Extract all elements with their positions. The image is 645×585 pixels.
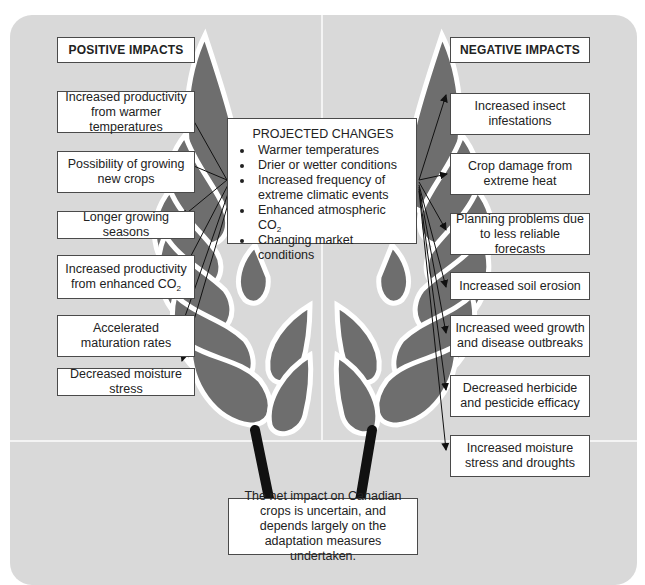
list-item: Drier or wetter conditions — [254, 158, 410, 173]
negative-impact-item: Increased soil erosion — [450, 272, 590, 300]
item-label: Increased productivity from warmer tempe… — [62, 90, 190, 135]
item-label: Increased weed growth and disease outbre… — [455, 321, 585, 351]
item-label: Decreased moisture stress — [62, 367, 190, 397]
heading-text: POSITIVE IMPACTS — [69, 43, 184, 58]
subscript: 2 — [177, 284, 181, 293]
list-item: Enhanced atmospheric CO2 — [254, 203, 410, 233]
negative-impact-item: Increased weed growth and disease outbre… — [450, 315, 590, 357]
item-label: Increased soil erosion — [459, 279, 581, 294]
item-label: Increased moisture stress and droughts — [455, 441, 585, 471]
positive-impacts-heading: POSITIVE IMPACTS — [57, 37, 195, 63]
positive-impact-item: Accelerated maturation rates — [57, 315, 195, 357]
positive-impact-item: Increased productivity from enhanced CO2 — [57, 255, 195, 299]
item-label: Possibility of growing new crops — [62, 157, 190, 187]
conclusion-text: The net impact on Canadian crops is unce… — [235, 489, 411, 564]
item-label: Accelerated maturation rates — [62, 321, 190, 351]
item-label: Crop damage from extreme heat — [455, 159, 585, 189]
item-label: Increased insect infestations — [455, 99, 585, 129]
projected-changes-box: PROJECTED CHANGES Warmer temperatures Dr… — [227, 118, 417, 244]
negative-impact-item: Planning problems due to less reliable f… — [450, 213, 590, 255]
projected-changes-title: PROJECTED CHANGES — [236, 127, 410, 142]
positive-impact-item: Increased productivity from warmer tempe… — [57, 91, 195, 133]
projected-changes-list: Warmer temperatures Drier or wetter cond… — [236, 143, 410, 263]
item-label: Increased productivity from enhanced CO2 — [62, 262, 190, 292]
conclusion-box: The net impact on Canadian crops is unce… — [228, 498, 418, 555]
negative-impacts-heading: NEGATIVE IMPACTS — [450, 37, 590, 63]
item-label: Decreased herbicide and pesticide effica… — [455, 381, 585, 411]
item-label-text: Increased productivity from enhanced CO — [65, 262, 187, 291]
positive-impact-item: Decreased moisture stress — [57, 368, 195, 396]
list-item: Changing market conditions — [254, 233, 410, 263]
positive-impact-item: Longer growing seasons — [57, 211, 195, 239]
positive-impact-item: Possibility of growing new crops — [57, 151, 195, 193]
heading-text: NEGATIVE IMPACTS — [460, 43, 580, 58]
list-item: Warmer temperatures — [254, 143, 410, 158]
list-item: Increased frequency of extreme climatic … — [254, 173, 410, 203]
negative-impact-item: Crop damage from extreme heat — [450, 153, 590, 195]
negative-impact-item: Increased moisture stress and droughts — [450, 435, 590, 477]
item-label: Longer growing seasons — [62, 210, 190, 240]
negative-impact-item: Decreased herbicide and pesticide effica… — [450, 375, 590, 417]
item-label: Planning problems due to less reliable f… — [455, 212, 585, 257]
negative-impact-item: Increased insect infestations — [450, 93, 590, 135]
